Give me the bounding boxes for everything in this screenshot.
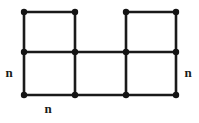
- graph-vertex: [173, 9, 179, 15]
- graph-vertex: [72, 92, 78, 98]
- graph-vertex: [173, 49, 179, 55]
- graph-vertex: [123, 92, 129, 98]
- grid-graph-figure: n n n: [0, 0, 199, 123]
- graph-vertex: [123, 9, 129, 15]
- graph-vertex: [21, 9, 27, 15]
- graph-vertex: [72, 49, 78, 55]
- edges-group: [24, 12, 176, 95]
- lattice-diagram: [0, 0, 199, 123]
- graph-vertex: [21, 92, 27, 98]
- graph-vertex: [123, 49, 129, 55]
- side-length-label-bottom: n: [44, 102, 51, 115]
- side-length-label-left: n: [5, 66, 12, 79]
- graph-vertex: [173, 92, 179, 98]
- graph-vertex: [72, 9, 78, 15]
- graph-vertex: [21, 49, 27, 55]
- side-length-label-right: n: [184, 66, 191, 79]
- vertices-group: [21, 9, 179, 98]
